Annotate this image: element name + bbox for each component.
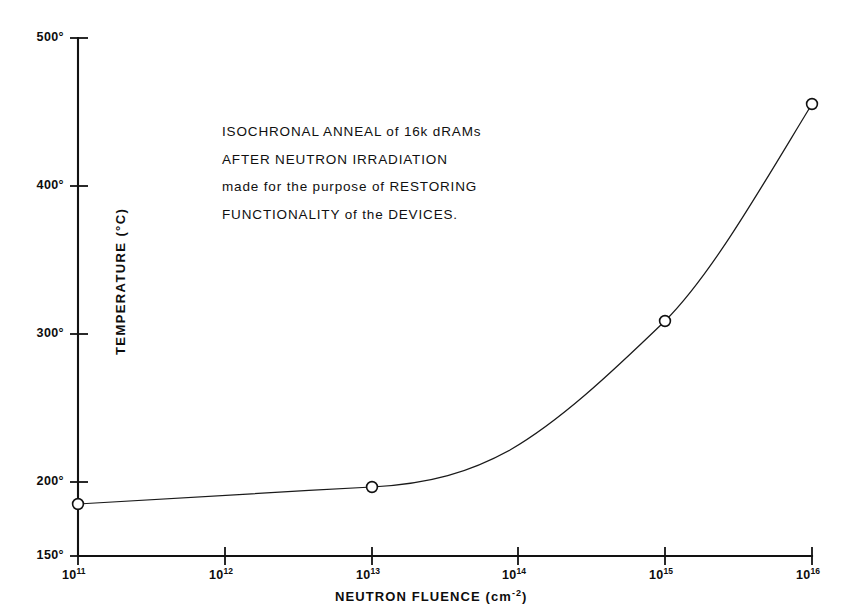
y-tick-label-500: 500° (14, 30, 64, 44)
x-tick-exponent-1e16: 16 (811, 566, 820, 576)
data-point-1e13 (367, 482, 378, 493)
x-tick-base-1e12: 10 (209, 568, 224, 582)
x-tick-label-1e15: 1015 (649, 566, 673, 582)
x-tick-exponent-1e14: 14 (517, 566, 526, 576)
chart-annotation: ISOCHRONAL ANNEAL of 16k dRAMs AFTER NEU… (222, 118, 652, 228)
x-axis-title-tail: ) (522, 589, 527, 604)
x-tick-label-1e13: 1013 (356, 566, 380, 582)
x-tick-exponent-1e15: 15 (664, 566, 673, 576)
x-tick-label-1e14: 1014 (502, 566, 526, 582)
x-axis-title-exponent: -2 (512, 588, 522, 598)
x-tick-base-1e13: 10 (356, 568, 371, 582)
data-point-1e11 (73, 499, 84, 510)
annotation-line-4: FUNCTIONALITY of the DEVICES. (222, 201, 652, 229)
x-tick-label-1e12: 1012 (209, 566, 233, 582)
chart-plot-area (0, 0, 862, 616)
data-point-1e16 (807, 99, 818, 110)
x-tick-exponent-1e11: 11 (77, 566, 86, 576)
y-axis-title: TEMPERATURE (°C) (113, 208, 128, 355)
x-tick-base-1e14: 10 (502, 568, 517, 582)
x-tick-base-1e16: 10 (796, 568, 811, 582)
annotation-line-2: AFTER NEUTRON IRRADIATION (222, 146, 652, 174)
x-tick-exponent-1e13: 13 (371, 566, 380, 576)
y-tick-label-200: 200° (14, 474, 64, 488)
x-tick-exponent-1e12: 12 (224, 566, 233, 576)
isochronal-anneal-chart: 500° 400° 300° 200° 150° 1011 1012 1013 … (0, 0, 862, 616)
x-axis-title: NEUTRON FLUENCE (cm-2) (335, 588, 528, 604)
x-tick-label-1e16: 1016 (796, 566, 820, 582)
x-tick-base-1e11: 10 (62, 568, 77, 582)
x-axis-title-main: NEUTRON FLUENCE (cm (335, 589, 512, 604)
annotation-line-1: ISOCHRONAL ANNEAL of 16k dRAMs (222, 118, 652, 146)
data-point-1e15 (660, 316, 671, 327)
y-tick-label-400: 400° (14, 178, 64, 192)
annotation-line-3: made for the purpose of RESTORING (222, 173, 652, 201)
x-tick-label-1e11: 1011 (62, 566, 86, 582)
y-tick-label-300: 300° (14, 326, 64, 340)
y-tick-label-150: 150° (14, 548, 64, 562)
x-tick-base-1e15: 10 (649, 568, 664, 582)
